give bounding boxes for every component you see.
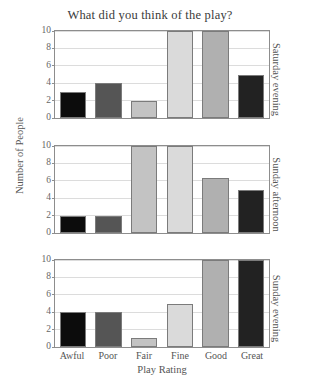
y-tick-label: 4	[46, 193, 51, 203]
y-tick-label: 8	[46, 159, 51, 169]
bar-group	[55, 31, 269, 118]
bar-fine	[167, 146, 193, 233]
panel-label-sunday-evening: Sunday evening	[271, 263, 282, 355]
bar-fair	[131, 338, 157, 347]
bar-group	[55, 146, 269, 233]
x-axis-title: Play Rating	[54, 364, 270, 375]
y-tick-label: 10	[42, 141, 52, 151]
y-tick-label: 0	[46, 342, 51, 352]
y-tick-label: 0	[46, 113, 51, 123]
panel-label-saturday-evening: Saturday evening	[271, 34, 282, 126]
y-tick-label: 2	[46, 325, 51, 335]
bar-good	[202, 31, 228, 118]
x-tick-label-good: Good	[198, 350, 234, 361]
y-tick-label: 4	[46, 307, 51, 317]
y-tick-label: 6	[46, 176, 51, 186]
x-tick-label-poor: Poor	[90, 350, 126, 361]
y-tick-label: 4	[46, 78, 51, 88]
panel-sunday-afternoon: 0246810	[54, 145, 270, 234]
x-tick-label-fair: Fair	[126, 350, 162, 361]
panel-label-sunday-afternoon: Sunday afternoon	[271, 149, 282, 241]
bar-fair	[131, 101, 157, 118]
y-tick-label: 10	[42, 255, 52, 265]
plot-area: 0246810	[55, 31, 269, 118]
y-tick-label: 10	[42, 26, 52, 36]
y-tick-label: 2	[46, 96, 51, 106]
bar-fine	[167, 304, 193, 347]
chart-container: What did you think of the play? Number o…	[0, 0, 327, 375]
y-tick-label: 6	[46, 290, 51, 300]
x-tick-label-awful: Awful	[54, 350, 90, 361]
chart-title: What did you think of the play?	[0, 8, 300, 23]
y-tick-label: 6	[46, 61, 51, 71]
plot-area: 0246810	[55, 260, 269, 347]
y-tick-label: 8	[46, 273, 51, 283]
panel-sunday-evening: 0246810	[54, 259, 270, 348]
x-tick-label-great: Great	[234, 350, 270, 361]
y-tick-label: 0	[46, 228, 51, 238]
y-axis-title: Number of People	[14, 96, 25, 216]
x-axis-categories: AwfulPoorFairFineGoodGreat	[54, 350, 270, 364]
plot-area: 0246810	[55, 146, 269, 233]
bar-good	[202, 178, 228, 233]
bar-poor	[95, 83, 121, 118]
y-tick-label: 2	[46, 211, 51, 221]
y-tick-label: 8	[46, 44, 51, 54]
bar-awful	[60, 312, 86, 347]
bar-good	[202, 260, 228, 347]
bar-fair	[131, 146, 157, 233]
bar-great	[238, 260, 264, 347]
bar-poor	[95, 216, 121, 233]
bar-awful	[60, 216, 86, 233]
bar-poor	[95, 312, 121, 347]
bar-fine	[167, 31, 193, 118]
bar-group	[55, 260, 269, 347]
x-tick-label-fine: Fine	[162, 350, 198, 361]
bar-great	[238, 190, 264, 234]
panel-saturday-evening: 0246810	[54, 30, 270, 119]
bar-awful	[60, 92, 86, 118]
bar-great	[238, 75, 264, 119]
